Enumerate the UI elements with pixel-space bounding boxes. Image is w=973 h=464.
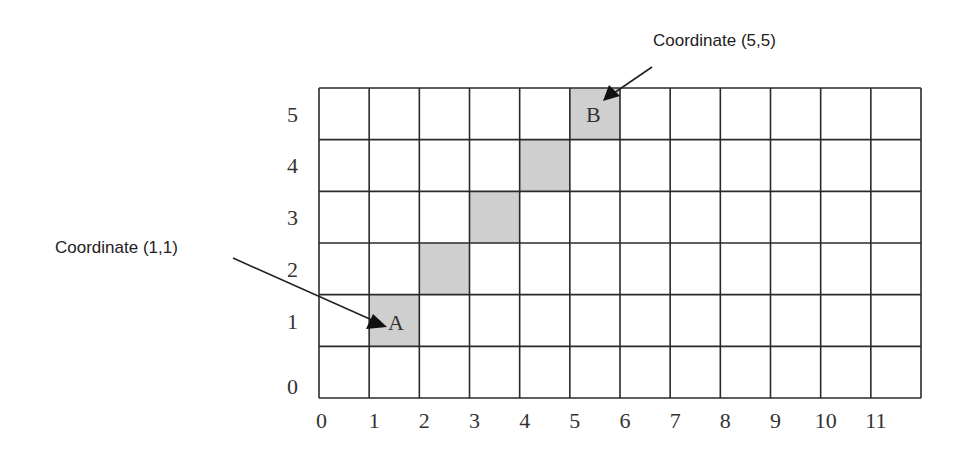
x-axis-labels: 01234567891011 [316, 408, 886, 433]
coordinate-grid-diagram: 01234567891011 012345 B A Coordinate (1,… [0, 0, 973, 464]
x-tick-label: 5 [569, 408, 580, 433]
grid-lines [319, 88, 921, 398]
x-tick-label: 6 [620, 408, 631, 433]
y-tick-label: 4 [287, 153, 298, 178]
y-tick-label: 5 [287, 102, 298, 127]
y-tick-label: 0 [287, 374, 298, 399]
shaded-cell [470, 191, 520, 243]
y-tick-label: 2 [287, 257, 298, 282]
x-tick-label: 0 [316, 408, 327, 433]
x-tick-label: 2 [419, 408, 430, 433]
y-tick-label: 3 [287, 205, 298, 230]
x-tick-label: 3 [469, 408, 480, 433]
y-axis-labels: 012345 [287, 102, 298, 399]
x-tick-label: 7 [670, 408, 681, 433]
x-tick-label: 8 [720, 408, 731, 433]
arrow-to-b [603, 67, 652, 101]
x-tick-label: 4 [519, 408, 530, 433]
shaded-cells [369, 88, 620, 346]
shaded-cell [419, 243, 469, 295]
point-label-b: B [586, 102, 601, 127]
shaded-cell [520, 140, 570, 192]
x-tick-label: 1 [369, 408, 380, 433]
point-label-a: A [388, 310, 404, 335]
x-tick-label: 10 [815, 408, 837, 433]
y-tick-label: 1 [287, 309, 298, 334]
arrow-to-a [233, 258, 387, 329]
annotation-coordinate-1-1: Coordinate (1,1) [55, 238, 178, 257]
annotation-coordinate-5-5: Coordinate (5,5) [653, 31, 776, 50]
x-tick-label: 9 [770, 408, 781, 433]
x-tick-label: 11 [865, 408, 886, 433]
